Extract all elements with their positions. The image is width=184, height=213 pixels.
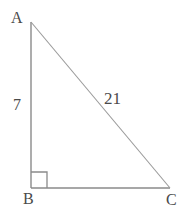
triangle-drawing xyxy=(0,0,184,213)
triangle-figure: A B C 7 21 xyxy=(0,0,184,213)
side-length-label-ac: 21 xyxy=(104,90,121,107)
triangle-side-ac-hypotenuse xyxy=(31,22,170,188)
vertex-label-c: C xyxy=(166,192,177,208)
side-length-label-ab: 7 xyxy=(13,97,21,113)
right-angle-marker-icon xyxy=(31,172,47,188)
vertex-label-b: B xyxy=(23,191,34,207)
vertex-label-a: A xyxy=(11,10,23,26)
